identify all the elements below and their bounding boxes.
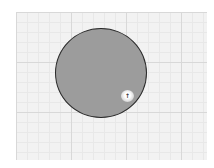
circle-shape[interactable] [55, 28, 147, 118]
marker-glyph: ↑ [125, 93, 130, 99]
pin-icon[interactable]: ↑ [121, 90, 134, 102]
